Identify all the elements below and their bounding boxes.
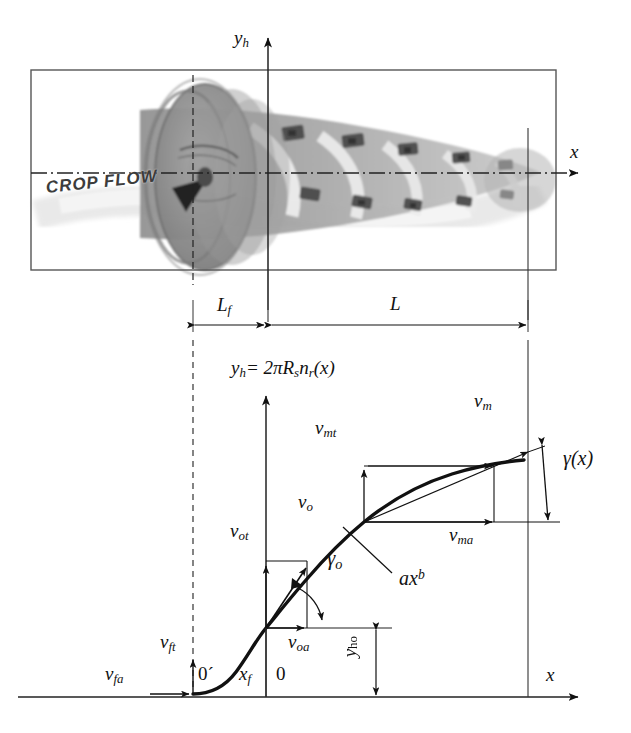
dimension-label-Lf: Lf — [217, 295, 231, 317]
vmt-label: vmt — [315, 418, 336, 440]
vma-label: vma — [449, 525, 473, 547]
gamma-o-arc — [298, 588, 322, 620]
vo-label: vo — [298, 492, 313, 514]
gamma-o-label: γo — [327, 548, 342, 571]
dimension-label-L: L — [390, 294, 401, 313]
vot-label: vot — [230, 521, 248, 543]
vm-label: vm — [474, 391, 492, 413]
plot-y-axis-label: yh= 2πRsnr(x) — [231, 358, 335, 380]
top-x-axis-label: x — [570, 142, 578, 161]
machine-frame-rect — [31, 70, 556, 270]
curve-axb — [193, 460, 524, 694]
figure-canvas: yh x CROP FLOW Lf L yh= 2πRsnr(x) x axb … — [0, 0, 631, 733]
gamma-x-dim — [542, 445, 548, 520]
origin-main-label: 0 — [276, 664, 286, 683]
vo-vector — [266, 568, 306, 628]
vm-vector — [364, 452, 528, 522]
plot-x-axis-label: x — [546, 665, 554, 684]
curve-equation-label: axb — [399, 568, 425, 588]
y-ho-label: yho — [340, 636, 360, 657]
origin-shifted-label: 0´ — [198, 664, 214, 683]
voa-label: voa — [288, 632, 309, 654]
axb-leader — [343, 527, 392, 573]
xf-label: xf — [239, 664, 251, 686]
vft-label: vft — [160, 632, 176, 654]
vfa-label: vfa — [105, 664, 123, 686]
top-y-axis-label: yh — [234, 28, 249, 50]
gamma-x-label: γ(x) — [563, 448, 593, 468]
